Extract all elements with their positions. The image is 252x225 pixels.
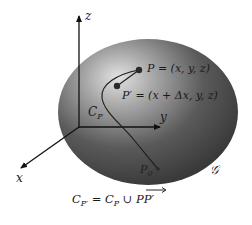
z-axis-label: z: [84, 9, 92, 23]
diagram-canvas: z y x P = (x, y, z) P′ = (x + Δx, y, z) …: [0, 0, 252, 225]
formula-eq: = C: [88, 192, 114, 206]
point-p-prime-label: P′ = (x + Δx, y, z): [121, 89, 218, 102]
curve-cp-sub: P: [96, 112, 103, 121]
point-p-prime: [114, 83, 120, 89]
formula-lhs-sub: P′: [80, 199, 88, 208]
curve-cp-main: C: [88, 105, 97, 119]
point-p: [136, 67, 142, 73]
formula-rhs: PP′: [135, 192, 154, 206]
diagram-svg: z y x P = (x, y, z) P′ = (x + Δx, y, z) …: [0, 0, 252, 225]
point-p0-sub: 0: [147, 169, 152, 178]
y-axis-label: y: [159, 110, 167, 124]
formula-lhs: C: [72, 192, 81, 206]
formula-union: ∪: [119, 192, 136, 206]
point-p0: [156, 167, 160, 171]
formula: CP′ = CP ∪ PP′: [72, 192, 155, 208]
point-p-label: P = (x, y, z): [146, 62, 210, 75]
region-g-label: 𝒢: [210, 163, 221, 177]
x-axis-label: x: [16, 171, 23, 185]
